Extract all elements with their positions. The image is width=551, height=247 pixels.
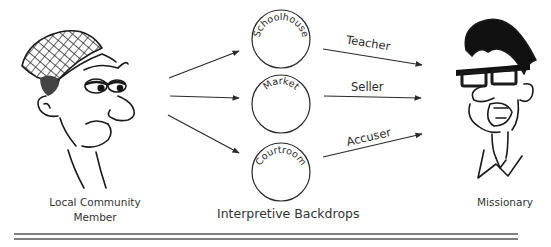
arrow-to-courtroom xyxy=(168,115,239,153)
label-line-2: Member xyxy=(40,210,150,225)
arrow-to-schoolhouse xyxy=(169,51,239,78)
backdrop-circles xyxy=(252,10,310,201)
role-label-seller: Seller xyxy=(351,80,384,94)
arrow-teacher xyxy=(323,49,422,65)
backdrop-label-market: Market xyxy=(261,75,302,92)
missionary-figure xyxy=(456,19,536,178)
missionary-label: Missionary xyxy=(470,195,540,210)
backdrop-label-schoolhouse: Schoolhouse xyxy=(251,11,312,39)
local-community-member-figure xyxy=(22,31,134,188)
arrow-to-market xyxy=(170,96,239,98)
label-line-1: Local Community xyxy=(40,195,150,210)
arrow-seller xyxy=(324,96,421,98)
arrows-to-backdrops xyxy=(168,51,239,153)
interpretive-backdrops-caption: Interpretive Backdrops xyxy=(217,206,360,221)
backdrop-label-courtroom: Courtroom xyxy=(253,144,309,167)
local-community-member-label: Local Community Member xyxy=(40,195,150,225)
